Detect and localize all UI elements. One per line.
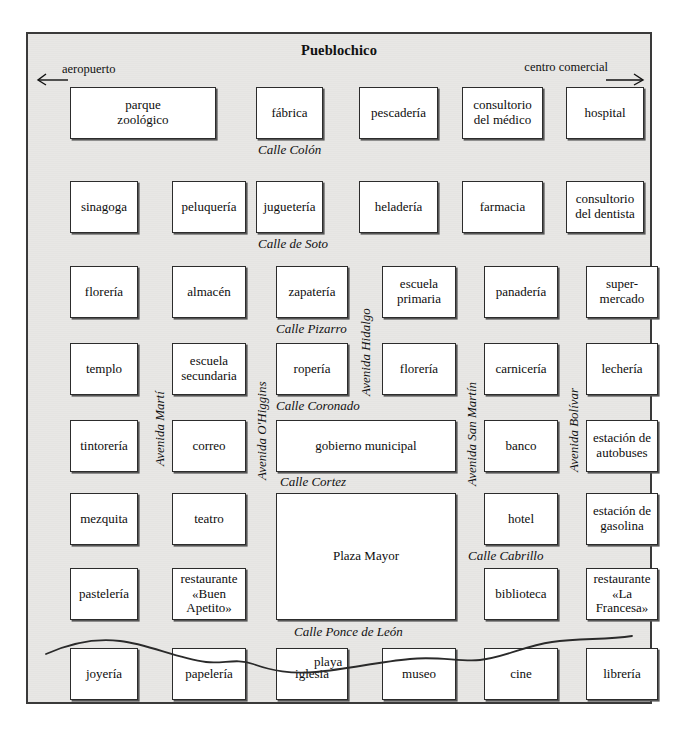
building-box[interactable]: carnicería [484,343,558,395]
building-box[interactable]: estación degasolina [586,493,658,545]
building-label: almacén [187,285,230,300]
town-map: Pueblochico aeropuerto centro comercial … [26,32,652,704]
building-box[interactable]: peluquería [172,181,246,233]
beach-label: playa [314,654,342,670]
page-title: Pueblochico [28,42,650,59]
building-box[interactable]: consultoriodel médico [462,87,543,139]
building-label: escuelaprimaria [397,277,441,306]
edge-label-aeropuerto: aeropuerto [62,62,115,77]
street-label-vertical: Avenida Martí [152,391,168,466]
building-label: parquezoológico [117,98,168,127]
building-box[interactable]: panadería [484,266,558,318]
building-box[interactable]: escuelaprimaria [382,266,456,318]
building-box[interactable]: hospital [566,87,644,139]
building-label: heladería [375,200,423,215]
left-arrow-icon [34,72,70,86]
building-label: gobierno municipal [315,439,416,454]
building-box[interactable]: heladería [359,181,438,233]
building-box[interactable]: zapatería [276,266,348,318]
building-box[interactable]: consultoriodel dentista [566,181,644,233]
building-label: florería [85,285,123,300]
building-box[interactable]: teatro [172,493,246,545]
building-box[interactable]: farmacia [462,181,543,233]
building-label: biblioteca [495,587,546,602]
building-label: farmacia [480,200,525,215]
building-label: lechería [601,362,642,377]
building-box[interactable]: lechería [586,343,658,395]
building-box[interactable]: juguetería [256,181,323,233]
building-label: templo [86,362,122,377]
building-label: super-mercado [600,277,645,306]
building-box[interactable]: escuelasecundaria [172,343,246,395]
street-label-vertical: Avenida O'Higgins [254,382,270,480]
building-box[interactable]: florería [70,266,138,318]
street-label-horizontal: Calle Coronado [276,398,360,414]
building-label: panadería [496,285,547,300]
building-box[interactable]: almacén [172,266,246,318]
building-label: consultoriodel dentista [575,192,635,221]
building-label: teatro [194,512,224,527]
building-box[interactable]: sinagoga [70,181,138,233]
building-box[interactable]: florería [382,343,456,395]
street-label-vertical: Avenida San Martín [464,382,480,486]
building-box[interactable]: parquezoológico [70,87,216,139]
building-label: zapatería [289,285,336,300]
street-label-horizontal: Calle Cabrillo [468,548,543,564]
street-label-vertical: Avenida Hidalgo [358,308,374,396]
building-label: ropería [294,362,331,377]
right-arrow-icon [604,72,646,86]
building-label: restaurante«LaFrancesa» [593,572,650,616]
building-label: banco [505,439,536,454]
building-box[interactable]: gobierno municipal [276,420,456,472]
building-label: juguetería [264,200,316,215]
street-label-horizontal: Calle Pizarro [276,321,347,337]
building-label: tintorería [80,439,128,454]
building-box[interactable]: super-mercado [586,266,658,318]
building-box[interactable]: hotel [484,493,558,545]
building-box[interactable]: templo [70,343,138,395]
building-label: sinagoga [81,200,127,215]
street-label-horizontal: Calle Colón [258,142,321,158]
building-box[interactable]: pastelería [70,568,138,620]
building-label: Plaza Mayor [333,549,399,564]
building-label: estación deautobuses [593,431,651,460]
building-box[interactable]: pescadería [359,87,438,139]
building-box[interactable]: banco [484,420,558,472]
building-label: pescadería [371,106,426,121]
street-label-horizontal: Calle de Soto [258,236,328,252]
building-box[interactable]: fábrica [256,87,323,139]
street-label-horizontal: Calle Cortez [280,474,346,490]
building-label: fábrica [271,106,307,121]
building-box[interactable]: mezquita [70,493,138,545]
building-box[interactable]: ropería [276,343,348,395]
building-label: pastelería [79,587,129,602]
building-label: mezquita [80,512,128,527]
edge-label-centro-comercial: centro comercial [524,60,608,75]
building-box[interactable]: biblioteca [484,568,558,620]
building-box[interactable]: correo [172,420,246,472]
building-box[interactable]: estación deautobuses [586,420,658,472]
building-label: consultoriodel médico [473,98,532,127]
street-label-vertical: Avenida Bolívar [566,388,582,472]
building-box[interactable]: restaurante«LaFrancesa» [586,568,658,620]
building-label: correo [192,439,225,454]
building-label: estación degasolina [593,504,651,533]
building-label: florería [400,362,438,377]
building-box[interactable]: tintorería [70,420,138,472]
building-box[interactable]: restaurante«BuenApetito» [172,568,246,620]
building-label: peluquería [182,200,237,215]
building-label: carnicería [495,362,546,377]
building-label: escuelasecundaria [181,354,237,383]
building-label: restaurante«BuenApetito» [180,572,237,616]
building-label: hospital [584,106,625,121]
building-box[interactable]: Plaza Mayor [276,493,456,620]
building-label: hotel [508,512,534,527]
